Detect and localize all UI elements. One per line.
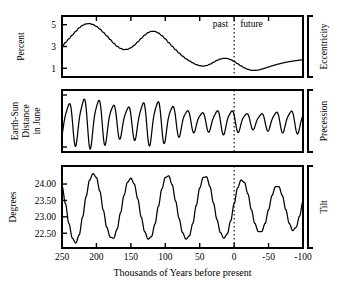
curve-precession xyxy=(62,99,303,149)
xtick-label: 200 xyxy=(89,252,104,262)
xtick-label: -100 xyxy=(294,252,312,262)
ytick-label-tilt: 22.50 xyxy=(35,229,57,239)
panel-frame-tilt xyxy=(62,166,303,248)
xtick-label: 100 xyxy=(158,252,173,262)
past-label: past xyxy=(213,19,229,29)
ytick-label-tilt: 23.50 xyxy=(35,196,57,206)
milankovitch-cycles-figure: 53124.0023.5023.0022.50250200150100500-5… xyxy=(0,0,342,290)
right-label-eccentricity: Eccentricity xyxy=(319,23,329,69)
xtick-label: 150 xyxy=(124,252,139,262)
future-label: future xyxy=(240,19,263,29)
xtick-label: 50 xyxy=(195,252,205,262)
ylabel-degrees: Degrees xyxy=(8,191,18,222)
bracket-tilt xyxy=(308,166,313,248)
ytick-label-eccentricity: 3 xyxy=(51,42,56,52)
ytick-label-eccentricity: 1 xyxy=(51,64,56,74)
ytick-label-eccentricity: 5 xyxy=(51,20,56,30)
bracket-eccentricity xyxy=(308,16,313,77)
right-label-precession: Precession xyxy=(319,100,329,141)
xtick-label: 0 xyxy=(232,252,237,262)
ytick-label-tilt: 24.00 xyxy=(35,179,57,189)
ylabel-percent: Percent xyxy=(16,32,26,61)
right-label-tilt: Tilt xyxy=(319,200,329,214)
bracket-precession xyxy=(308,90,313,152)
xtick-label: 250 xyxy=(55,252,70,262)
ytick-label-tilt: 23.00 xyxy=(35,212,57,222)
curve-eccentricity xyxy=(62,24,303,71)
ylabel-earth-sun-line2: Distance xyxy=(21,104,31,137)
xtick-label: -50 xyxy=(262,252,275,262)
chart-canvas: 53124.0023.5023.0022.50250200150100500-5… xyxy=(0,0,342,290)
curve-tilt xyxy=(62,174,303,244)
ylabel-earth-sun-line1: Earth-Sun xyxy=(10,101,20,140)
ylabel-earth-sun-line3: in June xyxy=(32,107,42,134)
x-axis-title: Thousands of Years before present xyxy=(113,267,251,278)
